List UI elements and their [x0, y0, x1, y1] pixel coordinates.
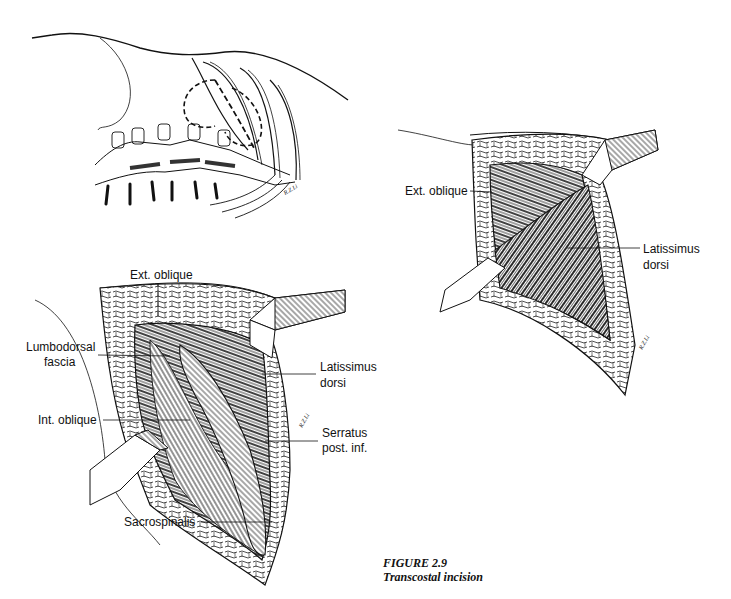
operative-view-right: R.Z.Li [398, 130, 658, 395]
figure-caption: FIGURE 2.9 Transcostal incision [383, 556, 483, 584]
label-latissimus-right: Latissimus [643, 242, 700, 256]
label-latissimus-left: Latissimus [320, 360, 377, 374]
artist-signature: R.Z.Li [637, 334, 650, 351]
label-serratus: Serratus [322, 426, 367, 440]
illustration-canvas: R.Z.Li R.Z.Li R.Z [0, 0, 731, 599]
artist-signature: R.Z.Li [282, 183, 299, 196]
label-dorsi-right: dorsi [643, 258, 669, 272]
label-post-inf: post. inf. [322, 441, 367, 455]
skeleton-sketch: R.Z.Li [32, 33, 348, 218]
label-fascia: fascia [44, 355, 75, 369]
operative-view-left: R.Z.Li [35, 283, 345, 585]
label-lumbodorsal: Lumbodorsal [26, 340, 95, 354]
label-ext-oblique-left: Ext. oblique [130, 268, 193, 282]
figure-number: FIGURE 2.9 [383, 556, 483, 570]
figure-title: Transcostal incision [383, 570, 483, 584]
label-dorsi-left: dorsi [320, 376, 346, 390]
artist-signature: R.Z.Li [297, 412, 310, 429]
label-ext-oblique-right: Ext. oblique [405, 184, 468, 198]
label-sacrospinalis: Sacrospinalis [124, 515, 195, 529]
label-int-oblique: Int. oblique [38, 413, 97, 427]
